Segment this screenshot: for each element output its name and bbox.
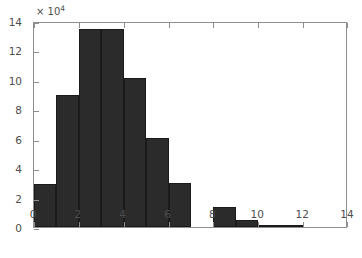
y-axis-tick-label: 10 [0, 75, 22, 87]
histogram-figure: × 104 02468101214 02468101214 [0, 0, 362, 258]
x-axis-tick-mark-top [169, 23, 170, 28]
y-axis-tick-mark [34, 141, 39, 142]
x-axis-tick-mark [213, 222, 214, 227]
x-axis-tick-mark-top [347, 23, 348, 28]
y-axis-tick-mark [34, 52, 39, 53]
histogram-bar [236, 220, 258, 227]
plot-axes [33, 22, 347, 228]
histogram-bar [101, 29, 123, 227]
x-axis-tick-label: 0 [30, 208, 37, 220]
x-axis-tick-mark [79, 222, 80, 227]
y-axis-tick-label: 4 [0, 163, 22, 175]
histogram-bar [213, 207, 235, 227]
histogram-bar [258, 225, 280, 227]
x-axis-tick-mark-top [34, 23, 35, 28]
x-axis-tick-mark [347, 222, 348, 227]
y-axis-tick-mark [34, 229, 39, 230]
x-axis-tick-mark-top [213, 23, 214, 28]
x-axis-tick-label: 12 [295, 208, 308, 220]
histogram-bar [169, 183, 191, 227]
y-axis-tick-label: 12 [0, 45, 22, 57]
x-axis-tick-mark [258, 222, 259, 227]
y-axis-tick-label: 6 [0, 134, 22, 146]
x-axis-tick-mark-top [124, 23, 125, 28]
y-axis-tick-mark [34, 170, 39, 171]
y-axis-exponent-power: 4 [60, 4, 65, 13]
y-axis-exponent-mantissa: × 10 [36, 6, 60, 17]
plot-area [34, 23, 346, 227]
histogram-bar [34, 184, 56, 227]
y-axis-tick-label: 0 [0, 222, 22, 234]
y-axis-tick-mark [34, 82, 39, 83]
x-axis-tick-label: 2 [75, 208, 82, 220]
y-axis-tick-label: 14 [0, 16, 22, 28]
x-axis-tick-label: 8 [209, 208, 216, 220]
x-axis-tick-mark-top [79, 23, 80, 28]
x-axis-tick-label: 4 [119, 208, 126, 220]
x-axis-tick-label: 6 [164, 208, 171, 220]
histogram-bar [79, 29, 101, 227]
y-axis-tick-label: 2 [0, 193, 22, 205]
x-axis-tick-mark-top [258, 23, 259, 28]
y-axis-exponent-label: × 104 [36, 4, 65, 17]
x-axis-tick-mark [124, 222, 125, 227]
y-axis-tick-mark [34, 111, 39, 112]
histogram-bar [124, 78, 146, 227]
x-axis-tick-mark [34, 222, 35, 227]
x-axis-tick-mark [303, 222, 304, 227]
histogram-bar [281, 225, 303, 227]
x-axis-tick-label: 10 [251, 208, 264, 220]
x-axis-tick-mark-top [303, 23, 304, 28]
y-axis-tick-label: 8 [0, 104, 22, 116]
x-axis-tick-label: 14 [340, 208, 353, 220]
y-axis-tick-mark [34, 200, 39, 201]
x-axis-tick-mark [169, 222, 170, 227]
